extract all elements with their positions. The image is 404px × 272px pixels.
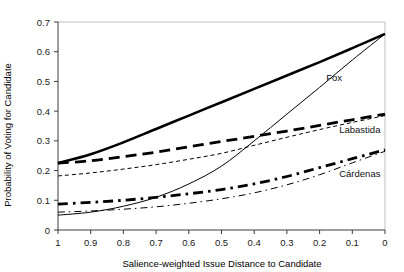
y-tick-label: 0.3 [37,135,50,146]
annotation-crdenas: Cárdenas [339,168,380,179]
y-tick-label: 0.4 [37,106,50,117]
chart-plot-area: 10.90.80.70.60.50.40.30.20.10 00.10.20.3… [0,0,404,272]
x-tick-label: 0 [382,237,387,248]
x-tick-label: 0.3 [280,237,293,248]
y-tick-label: 0 [45,225,50,236]
x-tick-label: 0.9 [84,237,97,248]
x-tick-label: 0.4 [248,237,261,248]
y-tick-label: 0.5 [37,76,50,87]
x-tick-label: 0.7 [149,237,162,248]
y-axis-title: Probability of Voting for Candidate [2,63,13,207]
y-tick-label: 0.1 [37,195,50,206]
x-tick-label: 0.6 [182,237,195,248]
chart-background [0,0,404,272]
x-tick-label: 1 [55,237,60,248]
x-tick-label: 0.5 [215,237,228,248]
x-tick-label: 0.2 [313,237,326,248]
x-axis-title: Salience-weighted Issue Distance to Cand… [122,258,321,269]
chart-figure: 10.90.80.70.60.50.40.30.20.10 00.10.20.3… [0,0,404,272]
x-tick-label: 0.1 [346,237,359,248]
annotation-fox: Fox [326,72,342,83]
x-tick-label: 0.8 [117,237,130,248]
y-tick-label: 0.7 [37,17,50,28]
y-tick-label: 0.2 [37,165,50,176]
y-tick-label: 0.6 [37,46,50,57]
annotation-labastida: Labastida [339,124,381,135]
